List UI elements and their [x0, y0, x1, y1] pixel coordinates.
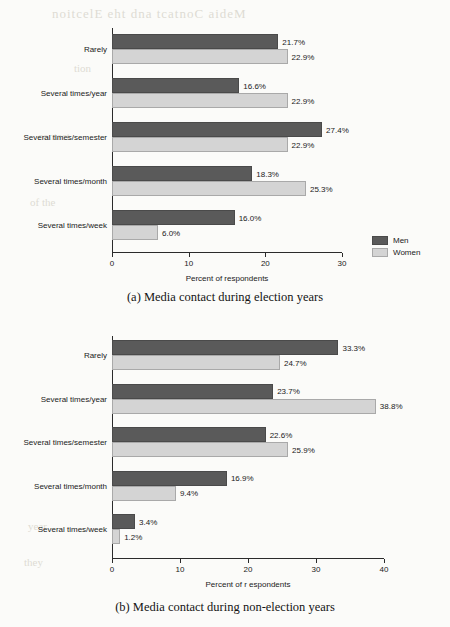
- category-label: Several times/semester: [23, 133, 107, 142]
- category-label: Several times/month: [34, 177, 107, 186]
- bar-row: 22.9%: [112, 93, 450, 108]
- bar-men[interactable]: [112, 78, 239, 93]
- bar-row: 9.4%: [112, 486, 450, 501]
- category-label: Several times/year: [41, 394, 107, 403]
- bar-men[interactable]: [112, 34, 278, 49]
- bar-row: 23.7%: [112, 384, 450, 399]
- bar-value-label: 6.0%: [162, 228, 180, 237]
- bar-row: 22.6%: [112, 427, 450, 442]
- figure-a-caption: (a) Media contact during election years: [0, 290, 450, 305]
- bar-women[interactable]: [112, 442, 288, 457]
- x-axis-tick: [180, 559, 181, 563]
- bar-value-label: 3.4%: [139, 517, 157, 526]
- bar-men[interactable]: [112, 122, 322, 137]
- bar-row: 18.3%: [112, 166, 450, 181]
- x-axis-tick-label: 30: [312, 565, 321, 574]
- legend-swatch-women-icon: [372, 248, 388, 257]
- category-label: Several times/week: [38, 525, 107, 534]
- bar-men[interactable]: [112, 384, 273, 399]
- bar-value-label: 16.6%: [243, 81, 266, 90]
- bar-group: Rarely21.7%22.9%: [112, 34, 450, 64]
- x-axis-tick: [316, 559, 317, 563]
- x-axis-tick: [189, 253, 190, 257]
- bar-value-label: 25.3%: [310, 184, 333, 193]
- x-axis-tick-label: 30: [338, 259, 347, 268]
- bar-value-label: 22.6%: [270, 430, 293, 439]
- bar-row: 16.9%: [112, 471, 450, 486]
- x-axis-tick: [112, 559, 113, 563]
- category-label: Several times/year: [41, 89, 107, 98]
- x-axis-tick-label: 40: [380, 565, 389, 574]
- bar-value-label: 22.9%: [292, 140, 315, 149]
- x-axis-tick-label: 10: [184, 259, 193, 268]
- bar-men[interactable]: [112, 166, 252, 181]
- bar-row: 22.9%: [112, 49, 450, 64]
- bar-men[interactable]: [112, 514, 135, 529]
- figure-b: Percent of r espondents Men Women 010203…: [0, 320, 450, 620]
- bar-row: 16.0%: [112, 210, 450, 225]
- bar-group: Rarely33.3%24.7%: [112, 340, 450, 370]
- bar-row: 27.4%: [112, 122, 450, 137]
- bar-row: 6.0%: [112, 225, 450, 240]
- bar-group: Several times/month18.3%25.3%: [112, 166, 450, 196]
- figure-a: Percent of respondents Men Women 0102030…: [0, 12, 450, 312]
- chart-a-plot-area: Percent of respondents Men Women 0102030…: [0, 12, 450, 284]
- bar-value-label: 9.4%: [180, 489, 198, 498]
- bar-women[interactable]: [112, 225, 158, 240]
- x-axis-tick: [112, 253, 113, 257]
- bar-row: 3.4%: [112, 514, 450, 529]
- x-axis-tick-label: 0: [110, 259, 114, 268]
- bar-women[interactable]: [112, 49, 288, 64]
- bar-women[interactable]: [112, 137, 288, 152]
- bar-women[interactable]: [112, 399, 376, 414]
- bar-men[interactable]: [112, 210, 235, 225]
- bar-row: 25.3%: [112, 181, 450, 196]
- bar-men[interactable]: [112, 427, 266, 442]
- bar-value-label: 22.9%: [292, 96, 315, 105]
- bar-group: Several times/semester27.4%22.9%: [112, 122, 450, 152]
- bar-value-label: 24.7%: [284, 358, 307, 367]
- bar-group: Several times/year16.6%22.9%: [112, 78, 450, 108]
- x-axis-tick-label: 10: [176, 565, 185, 574]
- bar-row: 16.6%: [112, 78, 450, 93]
- bar-value-label: 22.9%: [292, 52, 315, 61]
- bar-row: 22.9%: [112, 137, 450, 152]
- bar-row: 21.7%: [112, 34, 450, 49]
- category-label: Several times/week: [38, 221, 107, 230]
- chart-b-plot-area: Percent of r espondents Men Women 010203…: [0, 320, 450, 588]
- bar-row: 38.8%: [112, 399, 450, 414]
- bar-group: Several times/year23.7%38.8%: [112, 384, 450, 414]
- bar-group: Several times/week16.0%6.0%: [112, 210, 450, 240]
- bar-row: 25.9%: [112, 442, 450, 457]
- bar-group: Several times/week3.4%1.2%: [112, 514, 450, 544]
- bar-value-label: 16.9%: [231, 474, 254, 483]
- x-axis-title: Percent of respondents: [112, 274, 342, 283]
- figure-b-caption: (b) Media contact during non-election ye…: [0, 600, 450, 615]
- bar-women[interactable]: [112, 529, 120, 544]
- x-axis-tick-label: 20: [261, 259, 270, 268]
- x-axis-tick: [265, 253, 266, 257]
- bar-women[interactable]: [112, 93, 288, 108]
- x-axis-tick-label: 20: [244, 565, 253, 574]
- category-label: Several times/semester: [23, 438, 107, 447]
- x-axis-tick: [384, 559, 385, 563]
- bar-women[interactable]: [112, 355, 280, 370]
- category-label: Several times/month: [34, 481, 107, 490]
- bar-value-label: 33.3%: [342, 343, 365, 352]
- bar-value-label: 25.9%: [292, 445, 315, 454]
- x-axis-tick: [248, 559, 249, 563]
- bar-men[interactable]: [112, 471, 227, 486]
- legend-item-women: Women: [372, 248, 420, 257]
- bar-women[interactable]: [112, 486, 176, 501]
- bar-women[interactable]: [112, 181, 306, 196]
- legend-label-women: Women: [393, 248, 420, 257]
- bar-value-label: 18.3%: [256, 169, 279, 178]
- category-label: Rarely: [84, 351, 107, 360]
- x-axis-tick-label: 0: [110, 565, 114, 574]
- bar-men[interactable]: [112, 340, 338, 355]
- bar-value-label: 27.4%: [326, 125, 349, 134]
- bar-row: 1.2%: [112, 529, 450, 544]
- bar-value-label: 38.8%: [380, 402, 403, 411]
- bar-value-label: 16.0%: [239, 213, 262, 222]
- bar-value-label: 1.2%: [124, 532, 142, 541]
